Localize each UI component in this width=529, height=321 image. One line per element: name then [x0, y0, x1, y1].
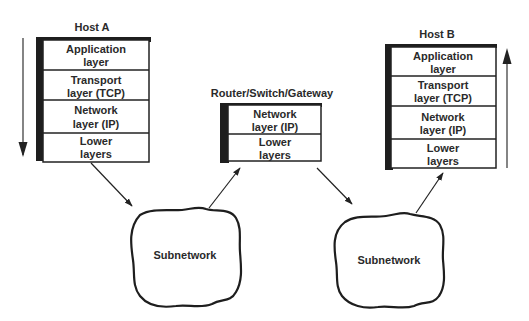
host-a-title: Host A: [74, 21, 109, 33]
layer-label: layer (IP): [73, 118, 120, 130]
arrow-subnetwork-1-to-router: [209, 168, 240, 208]
host-a-lower-layers: Lower layers: [80, 135, 113, 160]
subnetwork-label: Subnetwork: [358, 254, 422, 266]
layer-label: Network: [74, 104, 118, 116]
host-b-title: Host B: [419, 28, 455, 40]
layer-label: Transport: [71, 74, 122, 86]
arrow-subnetwork-2-to-host-b: [416, 173, 443, 213]
layer-label: layers: [259, 149, 291, 161]
router-network-layer: Network layer (IP): [252, 108, 299, 133]
router-lower-layers: Lower layers: [259, 136, 292, 161]
layer-label: Transport: [418, 79, 469, 91]
host-b-transport-layer: Transport layer (TCP): [414, 79, 472, 104]
arrow-host-a-to-subnetwork-1: [91, 163, 132, 206]
layer-label: Network: [253, 108, 297, 120]
layer-label: layer (IP): [252, 121, 299, 133]
layer-label: Lower: [427, 142, 460, 154]
host-a-stack: Host A Application layer Transport layer…: [19, 21, 152, 162]
router-title: Router/Switch/Gateway: [211, 87, 334, 99]
up-arrowhead-icon: [503, 48, 512, 64]
layer-label: Application: [66, 43, 126, 55]
layer-label: layer: [430, 63, 456, 75]
subnetwork-2: Subnetwork: [335, 213, 445, 308]
host-b-network-layer: Network layer (IP): [420, 111, 467, 136]
network-diagram: Host A Application layer Transport layer…: [0, 0, 529, 321]
subnetwork-label: Subnetwork: [154, 249, 218, 261]
layer-label: Network: [421, 111, 465, 123]
router-stack: Router/Switch/Gateway Network layer (IP)…: [211, 87, 334, 163]
layer-label: layer (TCP): [414, 92, 472, 104]
layer-label: layer: [83, 56, 109, 68]
subnetwork-1: Subnetwork: [131, 208, 241, 307]
layer-label: layers: [427, 155, 459, 167]
layer-label: Lower: [80, 135, 113, 147]
layer-label: Application: [413, 50, 473, 62]
layer-label: layer (IP): [420, 124, 467, 136]
host-a-transport-layer: Transport layer (TCP): [67, 74, 125, 99]
host-b-stack: Host B Application layer Transport layer…: [385, 28, 512, 170]
host-b-lower-layers: Lower layers: [427, 142, 460, 167]
connectors: [91, 163, 443, 213]
layer-label: layers: [80, 148, 112, 160]
layer-label: Lower: [259, 136, 292, 148]
arrow-router-to-subnetwork-2: [317, 168, 352, 204]
layer-label: layer (TCP): [67, 87, 125, 99]
down-arrowhead-icon: [19, 142, 28, 157]
